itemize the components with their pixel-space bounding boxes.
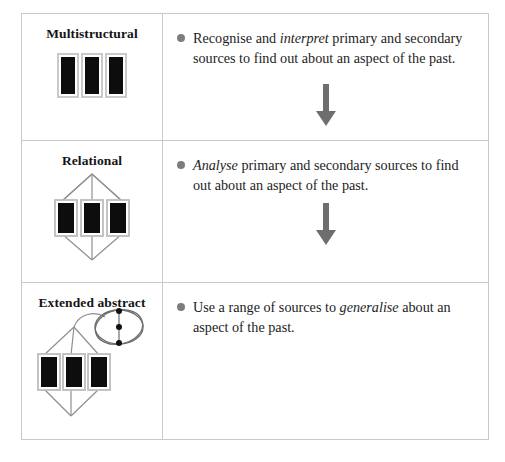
bullet-dot-icon — [177, 303, 185, 311]
bullet-dot-icon — [177, 34, 185, 42]
outcome-emphasis: generalise — [340, 299, 399, 315]
down-arrow-icon — [163, 84, 488, 128]
outcome-text: Recognise and interpret primary and seco… — [193, 28, 472, 68]
bullet-item: Recognise and interpret primary and seco… — [177, 28, 472, 68]
table-row: Relational — [22, 141, 488, 283]
table-row: Multistructural Recognise and int — [22, 14, 488, 141]
bullet-item: Use a range of sources to generalise abo… — [177, 297, 472, 337]
outcome-emphasis: interpret — [280, 30, 329, 46]
level-label-cell: Extended abstract — [22, 283, 163, 439]
bullet-dot-icon — [177, 161, 185, 169]
outcome-lead: Use a range of sources to — [193, 299, 340, 315]
three-bars-linked-icon — [22, 168, 162, 266]
outcome-emphasis: Analyse — [193, 157, 238, 173]
three-bars-icon — [22, 50, 162, 102]
table-row: Extended abstract — [22, 283, 488, 439]
solo-taxonomy-table: Multistructural Recognise and int — [21, 13, 489, 440]
page-title: Relational — [22, 154, 162, 169]
page-title: Multistructural — [22, 27, 162, 42]
outcome-text: Analyse primary and secondary sources to… — [193, 155, 472, 195]
three-bars-linked-extended-icon — [22, 303, 162, 423]
level-label-cell: Relational — [22, 141, 163, 282]
down-arrow-icon — [163, 203, 488, 247]
bullet-item: Analyse primary and secondary sources to… — [177, 155, 472, 195]
outcome-text: Use a range of sources to generalise abo… — [193, 297, 472, 337]
outcome-cell: Recognise and interpret primary and seco… — [163, 14, 488, 140]
outcome-cell: Use a range of sources to generalise abo… — [163, 283, 488, 439]
outcome-lead: Recognise and — [193, 30, 280, 46]
level-label-cell: Multistructural — [22, 14, 163, 140]
outcome-cell: Analyse primary and secondary sources to… — [163, 141, 488, 282]
